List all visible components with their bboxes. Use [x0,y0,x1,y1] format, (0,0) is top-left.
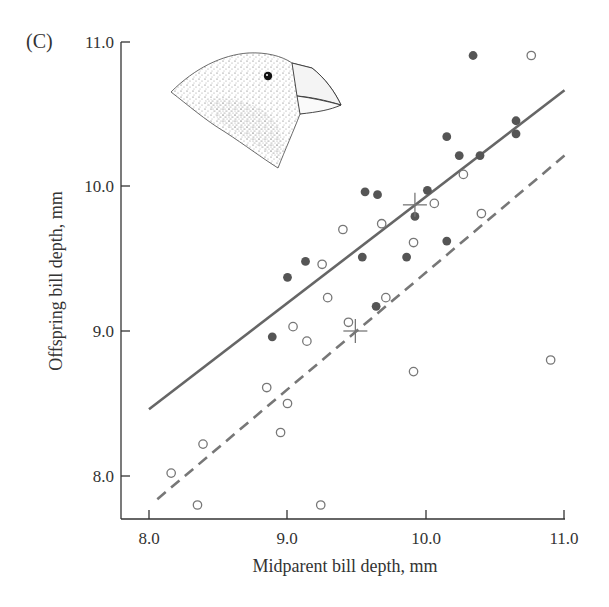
filled-data-point [512,129,521,138]
filled-data-point [301,257,310,266]
y-tick-label: 8.0 [93,467,114,486]
x-axis-title: Midparent bill depth, mm [253,556,438,576]
filled-data-point [361,187,370,196]
open-data-point [323,293,331,301]
finch-head-illustration [171,53,341,168]
open-data-point [546,356,554,364]
open-data-point [527,51,535,59]
open-data-point [409,367,417,375]
axes [121,42,565,519]
x-tick-label: 10.0 [411,529,441,548]
filled-data-point [442,132,451,141]
open-data-point [289,322,297,330]
filled-data-point [283,273,292,282]
open-data-point [377,220,385,228]
y-tick-label: 10.0 [84,177,114,196]
y-tick-label: 11.0 [85,33,114,52]
regression-line-solid [149,90,565,409]
open-data-point [199,440,207,448]
filled-data-point [358,253,367,262]
open-data-point [276,428,284,436]
open-data-point [283,399,291,407]
filled-data-point [372,302,381,311]
open-data-point [318,260,326,268]
filled-data-point [423,186,432,195]
open-data-point [339,225,347,233]
open-data-point [459,170,467,178]
mean-cross-icon [403,193,427,217]
open-data-point [317,501,325,509]
open-data-point [477,209,485,217]
y-tick-labels: 11.0 10.0 9.0 8.0 [84,33,114,486]
open-data-point [409,238,417,246]
x-tick-label: 11.0 [549,529,578,548]
open-data-point [303,337,311,345]
x-tick-label: 9.0 [276,529,297,548]
x-tick-labels: 8.0 9.0 10.0 11.0 [138,529,578,548]
open-data-point [344,318,352,326]
filled-data-point [442,237,451,246]
regression-line-dashed [157,156,564,500]
filled-data-point [455,151,464,160]
filled-data-point [373,190,382,199]
y-axis-title: Offspring bill depth, mm [46,191,66,371]
open-data-point [167,469,175,477]
filled-data-point [402,253,411,262]
scatter-chart: 11.0 10.0 9.0 8.0 8.0 9.0 10.0 11.0 Midp… [0,0,609,607]
open-data-point [430,199,438,207]
open-data-point [193,501,201,509]
filled-data-point [476,151,485,160]
filled-data-point [512,116,521,125]
open-data-point [263,383,271,391]
open-data-point [382,293,390,301]
bird-eye-icon [264,72,272,80]
filled-data-point [469,51,478,60]
filled-data-point [268,332,277,341]
y-tick-label: 9.0 [93,322,114,341]
mean-cross-markers [343,193,427,343]
x-tick-label: 8.0 [138,529,159,548]
